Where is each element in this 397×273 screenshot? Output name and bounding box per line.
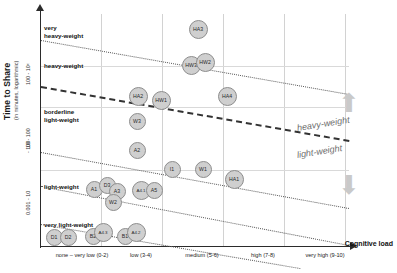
x-tick-label-5: very high (9-10) <box>282 252 368 258</box>
zone-label-borderline: borderline <box>44 108 74 116</box>
y-tick-label-1: 100 - 10ˣ <box>25 63 31 85</box>
zone-label-heavy-weight: heavy-weight <box>44 62 83 70</box>
data-point-a4-2[interactable]: A4.2 <box>127 223 146 242</box>
zone-label-very: very <box>44 24 57 32</box>
x-axis-title: Cognitive load <box>345 240 393 247</box>
data-point-ha4[interactable]: HA4 <box>218 87 237 106</box>
x-axis-line <box>40 246 352 247</box>
data-point-i1[interactable]: I1 <box>164 161 181 178</box>
y-tick-label-3: 10 - 100 <box>25 128 31 148</box>
vertical-gridline <box>223 14 224 246</box>
arrow-up-icon: ⬆ <box>338 90 360 116</box>
data-point-w2[interactable]: W2 <box>105 194 122 211</box>
data-point-ha2[interactable]: HA2 <box>129 87 148 106</box>
data-point-d2[interactable]: D2 <box>60 229 77 246</box>
arrow-down-icon: ⬇ <box>338 172 360 198</box>
data-point-w3[interactable]: W3 <box>129 113 146 130</box>
vertical-gridline <box>162 14 163 246</box>
data-point-a4-3[interactable]: A4.3 <box>94 223 113 242</box>
data-point-hw1[interactable]: HW1 <box>152 91 171 110</box>
vertical-gridline <box>101 14 102 246</box>
data-point-a5[interactable]: A5 <box>146 182 163 199</box>
data-point-ha3[interactable]: HA3 <box>189 20 208 39</box>
chart-container: Time to Share (in minutes, logarithmic) … <box>0 0 397 273</box>
horizontal-gridline <box>41 107 349 108</box>
data-point-a2[interactable]: A2 <box>129 142 146 159</box>
y-axis-line <box>40 10 41 248</box>
vertical-gridline <box>345 14 346 246</box>
data-point-ha1[interactable]: HA1 <box>225 170 244 189</box>
data-point-w1[interactable]: W1 <box>195 161 212 178</box>
zone-label-very-heavy-weight: heavy-weight <box>44 32 83 40</box>
zone-label-borderline-light-weight: light-weight <box>44 116 79 124</box>
y-tick-label-4: 0.001 - 10 <box>25 191 31 215</box>
data-point-hw2[interactable]: HW2 <box>196 53 215 72</box>
y-axis-subtitle: (in minutes, logarithmic) <box>13 10 19 120</box>
y-axis-title: Time to Share <box>2 10 12 120</box>
